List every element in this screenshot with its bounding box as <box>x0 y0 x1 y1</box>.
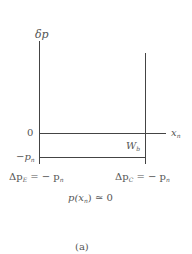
x-axis-label: xn <box>171 128 181 139</box>
zero-tick-label: 0 <box>27 128 33 138</box>
base-edge-line <box>145 53 146 164</box>
x-axis-line <box>39 133 166 134</box>
figure-caption: (a) <box>75 242 89 252</box>
base-width-label: Wb <box>126 141 140 152</box>
emitter-boundary-condition: ΔpE = − pn <box>9 172 64 183</box>
neg-pn-tick-label: −pn <box>16 152 35 163</box>
y-axis-line <box>39 41 40 164</box>
minus-pn-line <box>39 157 146 158</box>
collector-boundary-condition: ΔpC = − pn <box>115 172 170 183</box>
y-axis-label: δp <box>35 29 49 40</box>
base-condition-label: p(xn) ≃ 0 <box>68 193 113 204</box>
